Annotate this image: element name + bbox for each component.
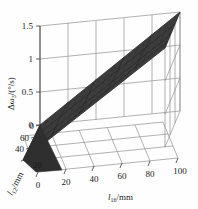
y-tick-label-1: 60	[20, 133, 30, 143]
z-tick-label-2: 0.5	[22, 87, 34, 97]
x-axis-title-unit: /mm	[117, 192, 134, 202]
x-tick-label-2: 40	[90, 174, 100, 184]
y-tick-label-2: 40	[15, 144, 25, 154]
x-tick-label-4: 80	[146, 169, 156, 179]
y-tick-label-3: 20	[33, 160, 43, 170]
y-axis-title: l12/mm	[5, 170, 26, 197]
svg-text:l12/mm: l12/mm	[5, 170, 26, 197]
x-axis-title: l16/mm	[108, 192, 133, 203]
plot-canvas: 1.5 1 0.5 0 Δω3/(°/s) 0 60 40 20 l12/mm	[0, 0, 198, 209]
z-tick-label-1: 1	[29, 54, 34, 64]
z-axis-ticks: 1.5 1 0.5 0	[22, 21, 40, 130]
figure-3d-surface-plot: 1.5 1 0.5 0 Δω3/(°/s) 0 60 40 20 l12/mm	[0, 0, 198, 209]
svg-text:l16/mm: l16/mm	[108, 192, 133, 203]
y-axis-title-unit: /mm	[9, 170, 26, 189]
z-axis-title-unit: /(°/s)	[6, 77, 16, 95]
x-tick-label-0: 0	[36, 180, 41, 190]
x-tick-label-3: 60	[118, 171, 128, 181]
z-tick-label-0: 1.5	[22, 21, 34, 31]
z-axis-title: Δω3/(°/s)	[6, 77, 17, 110]
x-tick-label-5: 100	[173, 166, 187, 176]
x-tick-label-1: 20	[62, 177, 72, 187]
y-tick-label-0: 0	[30, 121, 35, 131]
svg-text:Δω3/(°/s): Δω3/(°/s)	[6, 77, 17, 110]
